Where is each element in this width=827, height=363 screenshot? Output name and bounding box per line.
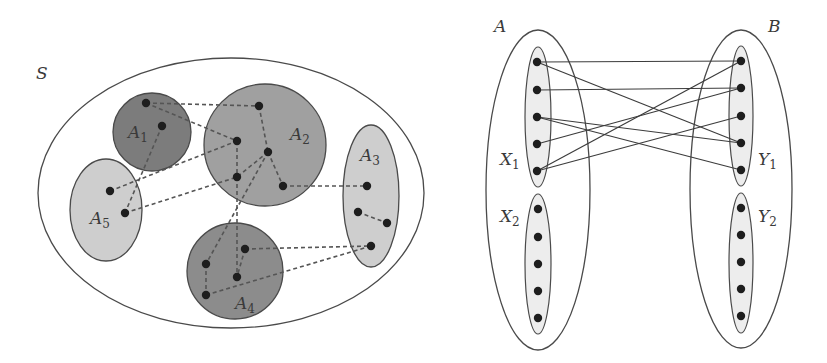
subset-label-a4-subscript: 4 [247,302,255,316]
vertex-dot [233,137,241,145]
subset-label-x1-letter: X [498,149,513,169]
vertex-dot [533,86,541,94]
vertex-dot [367,242,375,250]
vertex-dot [202,291,210,299]
vertex-dot [737,84,745,92]
subset-label-a2-subscript: 2 [302,133,310,147]
set-label-b: B [767,16,781,36]
vertex-dot [383,219,391,227]
vertex-dot [255,102,263,110]
set-partition-diagram: SA1A2A3A4A5 [36,58,424,328]
vertex-dot [737,139,745,147]
set-label-a-letter: A [492,16,506,36]
universe-label-letter: S [36,63,48,83]
subset-label-y2: Y2 [758,206,777,229]
subset-label-x1-subscript: 1 [512,158,520,172]
vertex-dot [158,122,166,130]
set-label-a: A [492,16,506,36]
vertex-dot [737,258,745,266]
vertex-dot [363,182,371,190]
vertex-dot [279,182,287,190]
subset-label-x2-letter: X [498,206,513,226]
universe-label: S [36,63,48,83]
diagram-canvas: SA1A2A3A4A5 ABX1X2Y1Y2 [0,0,827,363]
matching-edge [537,117,741,143]
subset-label-x1: X1 [498,149,520,172]
vertex-dot [106,187,114,195]
matching-edge [537,116,741,171]
vertex-dot [264,148,272,156]
subset-a1 [113,93,191,171]
vertex-dot [241,245,249,253]
subset-label-a5-letter: A [88,208,102,228]
vertex-dot [534,233,542,241]
vertex-dot [121,209,129,217]
vertex-dot [534,260,542,268]
vertex-dot [534,314,542,322]
vertex-dot [233,273,241,281]
vertex-dot [737,231,745,239]
subset-label-a5-subscript: 5 [102,217,110,231]
set-label-b-letter: B [767,16,781,36]
subset-label-y1: Y1 [758,149,777,172]
vertex-dot [533,167,541,175]
vertex-dot [534,287,542,295]
vertex-dot [533,113,541,121]
matching-edge [537,62,741,143]
matching-edge [537,61,741,171]
bipartite-diagram: ABX1X2Y1Y2 [486,16,792,350]
subset-a5 [70,159,142,261]
dashed-edge [125,177,237,213]
subset-label-y2-subscript: 2 [769,215,777,229]
vertex-dot [534,205,542,213]
vertex-dot [233,173,241,181]
vertex-dot [737,204,745,212]
vertex-dot [142,99,150,107]
matching-edge [537,88,741,90]
vertex-dot [533,58,541,66]
subset-label-y1-subscript: 1 [769,158,777,172]
vertex-dot [737,57,745,65]
subset-label-x2-subscript: 2 [512,215,520,229]
vertex-dot [202,260,210,268]
vertex-dot [354,208,362,216]
vertex-dot [737,112,745,120]
subset-label-a1-letter: A [126,122,140,142]
subset-label-a3-letter: A [358,145,372,165]
subset-label-x2: X2 [498,206,520,229]
vertex-dot [737,312,745,320]
vertex-dot [737,285,745,293]
subset-label-a1-subscript: 1 [140,131,148,145]
vertex-dot [737,166,745,174]
subset-label-a3-subscript: 3 [372,154,380,168]
subset-label-a4-letter: A [233,293,247,313]
vertex-dot [533,140,541,148]
subset-label-a2-letter: A [288,124,302,144]
